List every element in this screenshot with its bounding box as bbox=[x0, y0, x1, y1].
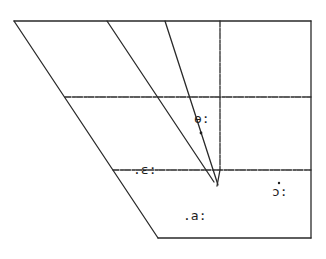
converging-line-2 bbox=[165, 21, 218, 185]
vowel-label-open-back: ɔ: bbox=[272, 184, 288, 199]
converging-line-1 bbox=[107, 21, 214, 182]
chart-grid bbox=[14, 21, 311, 238]
converging-line-3 bbox=[217, 170, 220, 186]
vowel-quadrilateral: ɵ: .ɛ: ɔ: .a: bbox=[0, 0, 326, 259]
vowel-label-close-mid-central: ɵ: bbox=[194, 111, 210, 126]
vowel-dot-e-rounded bbox=[200, 132, 203, 135]
vowel-label-open-central: .a: bbox=[183, 208, 206, 223]
vowel-chart: ɵ: .ɛ: ɔ: .a: bbox=[0, 0, 326, 259]
vowel-label-open-mid-front: .ɛ: bbox=[133, 162, 156, 177]
left-slant-edge bbox=[14, 21, 158, 238]
